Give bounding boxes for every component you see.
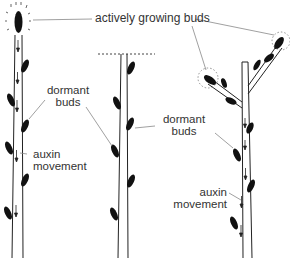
- label-dormant-buds-1: dormant buds: [44, 84, 92, 108]
- label-dormant-buds-2-line1: dormant: [160, 113, 208, 125]
- diagram-canvas: [0, 0, 290, 260]
- label-dormant-buds-2-line2: buds: [160, 125, 208, 137]
- label-auxin-movement-2-line2: movement: [171, 198, 227, 210]
- stem-decapitated: [118, 54, 128, 258]
- label-dormant-buds-1-line2: buds: [44, 96, 92, 108]
- leader-lines: [20, 19, 274, 200]
- growing-buds-branches: [202, 35, 286, 106]
- label-auxin-movement-1-line1: auxin: [33, 148, 87, 160]
- dormant-buds-stem2: [108, 60, 136, 221]
- auxin-arrows-stem1: [15, 40, 20, 217]
- label-dormant-buds-1-line1: dormant: [44, 84, 92, 96]
- label-dormant-buds-2: dormant buds: [160, 113, 208, 137]
- label-auxin-movement-2-line1: auxin: [171, 186, 227, 198]
- label-auxin-movement-2: auxin movement: [171, 186, 227, 210]
- label-actively-growing-buds: actively growing buds: [95, 12, 210, 24]
- dormant-buds-stem1: [2, 58, 30, 220]
- terminal-bud-icon: [15, 11, 23, 33]
- label-auxin-movement-1-line2: movement: [33, 160, 87, 172]
- label-auxin-movement-1: auxin movement: [33, 148, 87, 172]
